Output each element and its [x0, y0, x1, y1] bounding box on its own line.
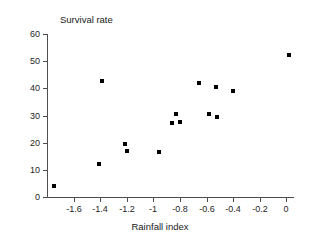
- data-point-marker: [125, 149, 129, 153]
- data-point-marker: [178, 120, 182, 124]
- data-point-marker: [174, 112, 178, 116]
- data-point-marker: [287, 53, 291, 57]
- data-point-marker: [97, 162, 101, 166]
- data-point-marker: [197, 81, 201, 85]
- data-point-marker: [214, 85, 218, 89]
- x-axis-title: Rainfall index: [0, 221, 320, 232]
- data-point-marker: [207, 112, 211, 116]
- data-point-marker: [52, 184, 56, 188]
- data-point-marker: [100, 79, 104, 83]
- plot-area: [0, 0, 320, 237]
- data-point-marker: [231, 89, 235, 93]
- scatter-plot-figure: Survival rate 0102030405060 -1.6-1.4-1.2…: [0, 0, 320, 237]
- data-point-marker: [157, 150, 161, 154]
- data-point-marker: [170, 121, 174, 125]
- data-point-marker: [123, 142, 127, 146]
- data-point-marker: [215, 115, 219, 119]
